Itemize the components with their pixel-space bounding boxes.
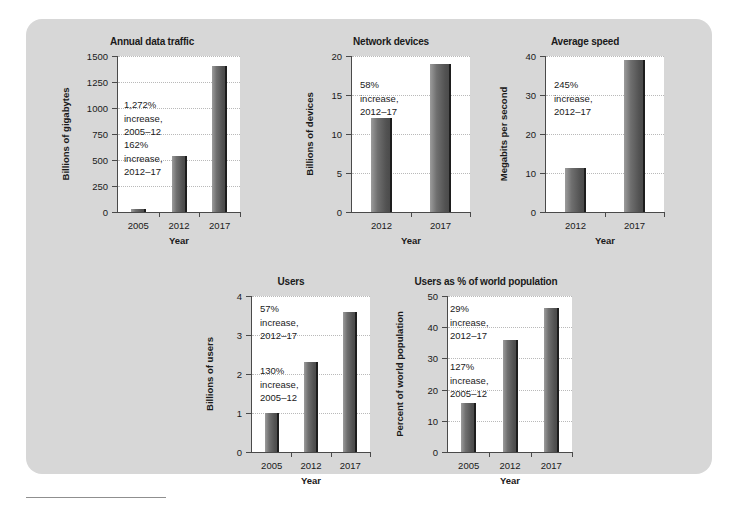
bar xyxy=(343,312,357,452)
x-axis-line xyxy=(442,452,572,453)
x-tick-mark xyxy=(470,212,471,217)
plot-area: 1,272% increase, 2005–12162% increase, 2… xyxy=(118,56,240,212)
x-axis-title: Year xyxy=(352,235,470,246)
x-tick-label: 2012 xyxy=(352,220,411,231)
bar xyxy=(430,64,451,212)
x-tick-mark xyxy=(199,212,200,217)
bar-annotation: 29% increase, 2012–17 xyxy=(450,302,489,343)
x-tick-label: 2005 xyxy=(118,220,159,231)
y-tick-mark xyxy=(540,173,545,174)
gridline xyxy=(352,173,470,174)
y-axis-title: Percent of world population xyxy=(394,296,405,452)
bar-annotation: 58% increase, 2012–17 xyxy=(360,78,399,119)
plot-area: 58% increase, 2012–17 xyxy=(352,56,470,212)
bar xyxy=(503,340,518,452)
x-axis-title: Year xyxy=(546,235,664,246)
y-tick-label: 10 xyxy=(296,129,342,140)
x-axis-title: Year xyxy=(448,475,572,486)
chart-average-speed: Average speed245% increase, 2012–1701020… xyxy=(490,36,680,248)
chart-title: Network devices xyxy=(296,36,486,47)
chart-users-pct-world-population: Users as % of world population127% incre… xyxy=(386,276,586,488)
y-tick-label: 20 xyxy=(296,51,342,62)
y-tick-mark xyxy=(112,212,117,213)
bar-annotation: 57% increase, 2012–17 xyxy=(260,302,299,343)
y-tick-mark xyxy=(246,452,251,453)
bar xyxy=(304,362,318,452)
y-tick-mark xyxy=(442,358,447,359)
x-tick-mark xyxy=(605,212,606,217)
chart-title: Average speed xyxy=(490,36,680,47)
gridline xyxy=(352,134,470,135)
x-tick-mark xyxy=(489,452,490,457)
bar xyxy=(172,156,187,212)
bar-annotation: 162% increase, 2012–17 xyxy=(124,138,163,179)
y-tick-label: 2 xyxy=(196,369,242,380)
y-tick-mark xyxy=(112,56,117,57)
y-tick-mark xyxy=(540,134,545,135)
y-tick-label: 30 xyxy=(490,90,536,101)
y-tick-label: 1 xyxy=(196,408,242,419)
y-tick-label: 0 xyxy=(196,447,242,458)
footnote-rule xyxy=(26,497,166,498)
bar xyxy=(371,118,392,212)
x-tick-mark xyxy=(331,452,332,457)
y-tick-mark xyxy=(246,374,251,375)
y-tick-label: 5 xyxy=(296,168,342,179)
y-tick-mark xyxy=(112,186,117,187)
bar xyxy=(544,308,559,452)
y-tick-mark xyxy=(246,335,251,336)
x-tick-mark xyxy=(531,452,532,457)
y-axis-title: Billions of gigabytes xyxy=(60,56,71,212)
x-tick-label: 2005 xyxy=(448,460,489,471)
x-tick-label: 2012 xyxy=(159,220,200,231)
bar-annotation: 245% increase, 2012–17 xyxy=(554,78,593,119)
y-tick-label: 20 xyxy=(490,129,536,140)
x-tick-mark xyxy=(411,212,412,217)
bar xyxy=(461,403,476,452)
y-tick-label: 0 xyxy=(296,207,342,218)
x-tick-mark xyxy=(572,452,573,457)
y-tick-mark xyxy=(540,212,545,213)
y-tick-label: 3 xyxy=(196,330,242,341)
y-tick-mark xyxy=(112,160,117,161)
x-tick-label: 2017 xyxy=(331,460,370,471)
bar xyxy=(212,66,227,212)
gridline xyxy=(252,296,370,297)
chart-network-devices: Network devices58% increase, 2012–170510… xyxy=(296,36,486,248)
x-tick-label: 2012 xyxy=(489,460,530,471)
x-axis-title: Year xyxy=(252,475,370,486)
y-axis-title: Billions of users xyxy=(204,296,215,452)
y-axis-title: Billions of devices xyxy=(304,56,315,212)
chart-title: Users xyxy=(196,276,386,287)
chart-annual-data-traffic: Annual data traffic1,272% increase, 2005… xyxy=(52,36,252,248)
bar-annotation: 130% increase, 2005–12 xyxy=(260,364,299,405)
gridline xyxy=(546,134,664,135)
y-tick-label: 40 xyxy=(490,51,536,62)
y-tick-mark xyxy=(346,212,351,213)
bar-annotation: 127% increase, 2005–12 xyxy=(450,360,489,401)
y-axis-line xyxy=(545,56,546,212)
y-tick-mark xyxy=(442,452,447,453)
x-axis-title: Year xyxy=(118,235,240,246)
x-axis-line xyxy=(540,212,664,213)
x-tick-mark xyxy=(159,212,160,217)
y-tick-mark xyxy=(442,327,447,328)
y-axis-line xyxy=(447,296,448,452)
y-tick-label: 10 xyxy=(490,168,536,179)
y-axis-line xyxy=(251,296,252,452)
x-tick-mark xyxy=(664,212,665,217)
plot-area: 245% increase, 2012–17 xyxy=(546,56,664,212)
y-tick-mark xyxy=(112,108,117,109)
figure-root: Annual data traffic1,272% increase, 2005… xyxy=(0,0,740,514)
y-tick-label: 15 xyxy=(296,90,342,101)
y-tick-mark xyxy=(442,296,447,297)
y-tick-mark xyxy=(346,56,351,57)
gridline xyxy=(546,56,664,57)
x-tick-label: 2017 xyxy=(531,460,572,471)
bar xyxy=(265,413,279,452)
x-axis-line xyxy=(246,452,370,453)
y-tick-mark xyxy=(540,56,545,57)
bar-annotation: 1,272% increase, 2005–12 xyxy=(124,98,163,139)
x-tick-label: 2012 xyxy=(291,460,330,471)
y-axis-line xyxy=(351,56,352,212)
